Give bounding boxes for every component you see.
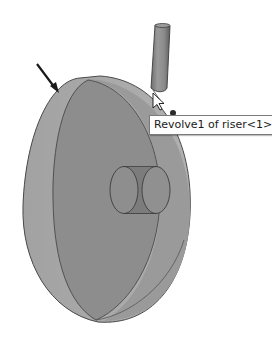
feature-tooltip: Revolve1 of riser<1>: [149, 115, 272, 135]
tooltip-text: Revolve1 of riser<1>: [154, 118, 272, 131]
arrow-pointer-icon: [37, 64, 59, 93]
cylinder-hole[interactable]: [110, 167, 170, 215]
hole-near-ellipse: [110, 167, 138, 214]
graphics-viewport[interactable]: Revolve1 of riser<1>: [0, 0, 272, 343]
model-canvas[interactable]: [0, 0, 272, 343]
pen-stylus-icon: [151, 24, 170, 101]
hole-far-ellipse: [142, 167, 170, 214]
